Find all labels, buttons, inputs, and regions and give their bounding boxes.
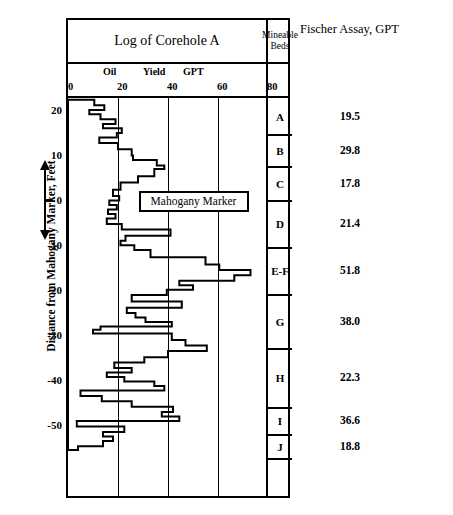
oil-yield-log-curve: [68, 98, 268, 496]
bed-cell-J: J: [268, 436, 292, 461]
y-tick-5: -30: [47, 329, 62, 341]
x-axis-scale: OilYieldGPT 020406080: [68, 64, 268, 96]
mahogany-marker-label: Mahogany Marker: [139, 191, 249, 212]
y-tick-7: -50: [47, 419, 62, 431]
bed-cell-I: I: [268, 409, 292, 436]
x-unit-word-2: GPT: [183, 66, 204, 77]
bed-label: B: [276, 145, 283, 157]
bed-cell-H: H: [268, 350, 292, 409]
bed-label: G: [276, 316, 285, 328]
y-axis: Distance from Mahogany Marker, Feet 2010…: [28, 0, 64, 515]
assay-value-C: 17.8: [300, 177, 360, 189]
mineable-beds-title-line2: Beds: [271, 41, 290, 51]
x-tick-3: 60: [217, 81, 228, 92]
bed-label: D: [276, 218, 284, 230]
y-tick-0: 20: [51, 104, 62, 116]
assay-value-E-F: 51.8: [300, 264, 360, 276]
mineable-beds-title: Mineable Beds: [268, 20, 292, 62]
corehole-log-figure: Distance from Mahogany Marker, Feet 2010…: [0, 0, 453, 515]
x-tick-4: 80: [267, 81, 278, 92]
x-tick-0: 0: [68, 81, 73, 92]
mineable-beds-column: ABCDE-FGHIJ: [268, 98, 292, 496]
log-title: Log of Corehole A: [68, 20, 268, 62]
assay-value-J: 18.8: [300, 440, 360, 452]
bed-cell-unlabeled: [268, 460, 292, 480]
x-tick-1: 20: [117, 81, 128, 92]
assay-value-I: 36.6: [300, 414, 360, 426]
figure-body: ABCDE-FGHIJ: [68, 98, 288, 496]
assay-value-B: 29.8: [300, 144, 360, 156]
bed-label: E-F: [271, 265, 289, 277]
bed-cell-B: B: [268, 136, 292, 168]
y-tick-6: -40: [47, 374, 62, 386]
y-tick-1: 10: [51, 149, 62, 161]
bed-cell-A: A: [268, 100, 292, 136]
y-tick-2: 0: [57, 194, 63, 206]
bed-cell-C: C: [268, 168, 292, 202]
x-unit-word-0: Oil: [103, 66, 116, 77]
y-tick-4: -20: [47, 284, 62, 296]
log-plot-area: [68, 98, 268, 496]
bed-label: H: [276, 372, 285, 384]
figure-frame: Log of Corehole A Mineable Beds OilYield…: [66, 18, 290, 498]
bed-label: J: [277, 441, 283, 453]
title-row: Log of Corehole A Mineable Beds: [68, 20, 288, 64]
bed-cell-D: D: [268, 202, 292, 249]
assay-value-A: 19.5: [300, 110, 360, 122]
bed-label: C: [276, 178, 284, 190]
bed-cell-G: G: [268, 296, 292, 350]
marker-range-arrow: [38, 160, 52, 240]
bed-cell-E-F: E-F: [268, 249, 292, 296]
bed-label: A: [276, 111, 284, 123]
log-step-polyline: [68, 100, 251, 450]
assay-value-G: 38.0: [300, 315, 360, 327]
y-tick-3: -10: [47, 239, 62, 251]
x-tick-2: 40: [167, 81, 178, 92]
x-unit-word-1: Yield: [143, 66, 165, 77]
bed-label: I: [278, 415, 282, 427]
mineable-beds-title-line1: Mineable: [262, 30, 298, 40]
assay-value-H: 22.3: [300, 371, 360, 383]
fischer-assay-title: Fischer Assay, GPT: [300, 22, 450, 37]
x-axis-scale-row: OilYieldGPT 020406080: [68, 64, 288, 98]
assay-value-D: 21.4: [300, 217, 360, 229]
